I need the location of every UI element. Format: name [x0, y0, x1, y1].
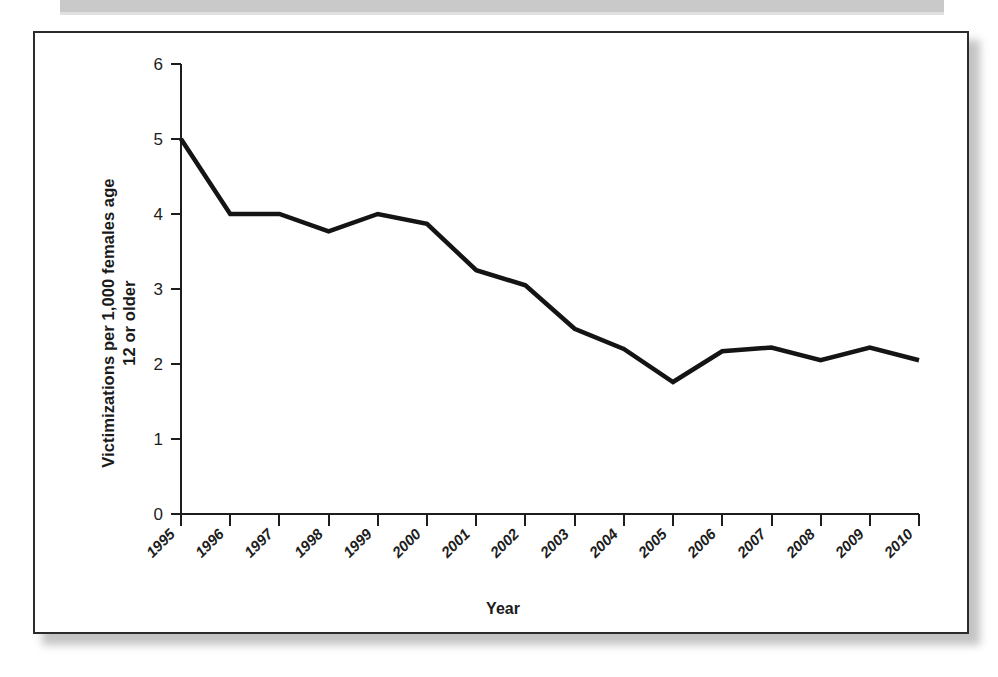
x-tick-label-2004: 2004 — [585, 525, 622, 562]
x-tick-label-2005: 2005 — [634, 525, 671, 562]
x-axis-tick-labels: 1995 1996 1997 1998 1999 2000 2001 2002 … — [143, 525, 917, 562]
x-tick-label-2008: 2008 — [782, 525, 819, 562]
x-tick-label-2000: 2000 — [388, 525, 425, 562]
y-axis-tick-labels: 0 1 2 3 4 5 6 — [154, 55, 163, 524]
x-tick-label-2007: 2007 — [733, 525, 770, 562]
y-tick-label: 3 — [154, 280, 163, 299]
y-tick-label: 1 — [154, 430, 163, 449]
x-tick-label-2006: 2006 — [683, 525, 720, 562]
x-axis-ticks — [181, 514, 919, 526]
y-tick-label: 5 — [154, 130, 163, 149]
x-tick-label-2010: 2010 — [880, 525, 917, 562]
x-tick-label-1995: 1995 — [143, 525, 179, 561]
x-tick-label-1999: 1999 — [340, 525, 376, 561]
scan-artifact-band-top — [60, 0, 944, 12]
x-tick-label-1998: 1998 — [291, 525, 327, 561]
y-tick-label: 4 — [154, 205, 163, 224]
x-tick-label-1997: 1997 — [241, 525, 277, 561]
data-series-line — [181, 139, 919, 382]
y-axis-title: Victimizations per 1,000 females age 12 … — [91, 113, 147, 533]
y-tick-label: 6 — [154, 55, 163, 74]
x-axis-title: Year — [35, 600, 971, 618]
x-tick-label-1996: 1996 — [192, 525, 228, 561]
y-axis-ticks — [171, 64, 181, 514]
chart-figure: 0 1 2 3 4 5 6 — [33, 31, 969, 634]
x-tick-label-2002: 2002 — [486, 525, 523, 562]
y-axis-title-line1: Victimizations per 1,000 females age — [99, 178, 117, 467]
x-tick-label-2003: 2003 — [536, 525, 573, 562]
y-tick-label: 2 — [154, 355, 163, 374]
scan-artifact-band-top-soft — [60, 12, 944, 15]
y-tick-label: 0 — [154, 505, 163, 524]
y-axis-title-line2: 12 or older — [120, 280, 138, 365]
x-tick-label-2001: 2001 — [437, 525, 473, 561]
line-chart-plot: 0 1 2 3 4 5 6 — [35, 33, 971, 636]
x-tick-label-2009: 2009 — [831, 525, 868, 562]
